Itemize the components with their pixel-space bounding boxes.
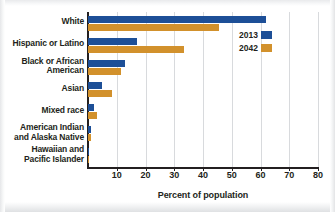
bar-group	[88, 60, 318, 75]
x-tick-label: 60	[249, 170, 273, 180]
bar-2013	[88, 38, 137, 45]
legend-swatch	[261, 31, 272, 39]
category-label-line: Asian	[0, 84, 84, 94]
legend-label: 2013	[239, 30, 258, 40]
bar-group	[88, 16, 318, 31]
bar-2042	[88, 46, 184, 53]
category-label-line: American	[0, 66, 84, 76]
category-label: Mixed race	[0, 106, 84, 116]
x-tick-label: 30	[162, 170, 186, 180]
category-label-line: Hawaiian and	[0, 145, 84, 155]
bar-2013	[88, 16, 266, 23]
bar-2042	[88, 90, 112, 97]
bar-2013	[88, 126, 91, 133]
figure-edge-bottom	[0, 202, 335, 212]
bar-2042	[88, 156, 89, 163]
bar-2013	[88, 104, 94, 111]
category-label-line: and Alaska Native	[0, 133, 84, 143]
bar-2042	[88, 68, 121, 75]
legend-swatch	[261, 44, 272, 52]
bar-2013	[88, 60, 125, 67]
category-label-line: White	[0, 17, 84, 27]
x-tick-label: 70	[277, 170, 301, 180]
legend-label: 2042	[239, 43, 258, 53]
category-label: Hawaiian andPacific Islander	[0, 145, 84, 165]
figure-edge-top	[0, 0, 335, 6]
bar-group	[88, 82, 318, 97]
chart-figure: WhiteHispanic or LatinoBlack or AfricanA…	[0, 0, 335, 212]
category-label-line: American Indian	[0, 123, 84, 133]
bar-2042	[88, 112, 97, 119]
category-label-line: Mixed race	[0, 106, 84, 116]
category-label: Asian	[0, 84, 84, 94]
bar-2013	[88, 82, 102, 89]
x-tick-label: 10	[105, 170, 129, 180]
figure-edge-left	[0, 0, 5, 212]
category-label: American Indianand Alaska Native	[0, 123, 84, 143]
category-label-line: Black or African	[0, 57, 84, 67]
bar-2013	[88, 148, 89, 155]
category-label: White	[0, 17, 84, 27]
x-tick-label: 80	[306, 170, 330, 180]
x-tick-label: 20	[134, 170, 158, 180]
bar-group	[88, 148, 318, 163]
bar-group	[88, 104, 318, 119]
bar-2042	[88, 24, 219, 31]
category-label: Hispanic or Latino	[0, 39, 84, 49]
bar-2042	[88, 134, 91, 141]
gridline	[318, 12, 319, 167]
plot-area	[88, 12, 318, 167]
figure-edge-right	[330, 0, 335, 212]
x-tick-label: 50	[220, 170, 244, 180]
bar-group	[88, 126, 318, 141]
category-label: Black or AfricanAmerican	[0, 57, 84, 77]
x-tick-label: 40	[191, 170, 215, 180]
category-label-line: Hispanic or Latino	[0, 39, 84, 49]
x-axis-title: Percent of population	[88, 190, 318, 200]
category-label-line: Pacific Islander	[0, 155, 84, 165]
bar-group	[88, 38, 318, 53]
